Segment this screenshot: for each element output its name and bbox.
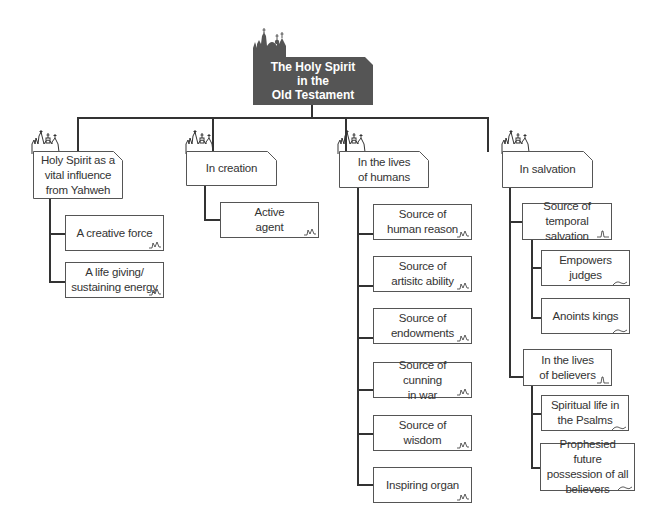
squiggle-icon — [149, 287, 161, 296]
leaf-active-agent: Active agent — [220, 202, 319, 238]
leaf-label: Inspiring organ — [382, 478, 463, 493]
leaf-a-creative-force: A creative force — [65, 215, 164, 251]
leaf-label: Source of human reason — [383, 207, 462, 237]
branch-4-label: In salvation — [516, 162, 580, 177]
branch-1-tick-2 — [49, 281, 65, 283]
leaf-source-of-wisdom: Source of wisdom — [373, 415, 472, 451]
squiggle-icon — [457, 387, 469, 396]
branch-3-label: In the lives of humans — [354, 155, 415, 185]
squiggle-icon — [457, 492, 469, 501]
squiggle-icon — [457, 281, 469, 290]
branch-node-holy-spirit-as-vital-influence: Holy Spirit as a vital influence from Ya… — [33, 151, 123, 199]
leaf-label: Source of wisdom — [395, 418, 450, 448]
squiggle-icon — [304, 227, 316, 236]
leaf-source-of-endowments: Source of endowments — [373, 308, 472, 344]
branch-3-tick-5 — [357, 433, 373, 435]
branch-node-in-the-lives-of-humans: In the lives of humans — [339, 151, 429, 188]
leaf-label: Active agent — [250, 205, 288, 235]
branch-node-in-creation: In creation — [186, 151, 277, 186]
temporal-tick-2 — [531, 317, 541, 319]
wave-tail-icon — [618, 485, 632, 491]
node-source-of-temporal-salvation: Source of temporal salvation — [522, 203, 612, 240]
squiggle-icon — [149, 240, 161, 249]
cathedral-silhouette-icon — [252, 28, 312, 60]
branch-1-tick-1 — [49, 233, 65, 235]
squiggle-icon — [457, 333, 469, 342]
branch-2-tick-1 — [204, 219, 220, 221]
leaf-source-of-cunning-in-war: Source of cunning in war — [373, 362, 472, 398]
spike-icon — [597, 375, 609, 384]
temporal-spine — [531, 239, 533, 319]
branch-3-tick-2 — [357, 285, 373, 287]
believers-spine — [531, 385, 533, 469]
leaf-source-of-artistic-ability: Source of artisitc ability — [373, 256, 472, 292]
leaf-label: A creative force — [72, 226, 156, 241]
branch-4-drop — [487, 117, 489, 152]
branch-1-drop — [77, 117, 79, 152]
node-label: In the lives of believers — [535, 353, 599, 383]
branch-node-in-salvation: In salvation — [502, 151, 593, 188]
leaf-spiritual-life-in-the-psalms: Spiritual life in the Psalms — [541, 395, 629, 431]
wave-tail-icon — [613, 328, 627, 334]
believers-tick-1 — [531, 413, 541, 415]
root-crossbar — [77, 117, 489, 119]
leaf-label: Source of endowments — [387, 311, 458, 341]
leaf-anoints-kings: Anoints kings — [541, 298, 630, 334]
wave-tail-icon — [613, 280, 627, 286]
leaf-prophesied-future-possession: Prophesied future possession of all beli… — [540, 443, 635, 491]
leaf-source-of-human-reason: Source of human reason — [373, 204, 472, 240]
squiggle-icon — [457, 440, 469, 449]
leaf-label: Spiritual life in the Psalms — [547, 398, 623, 428]
branch-3-tick-4 — [357, 389, 373, 391]
branch-3-spine — [357, 187, 359, 485]
spike-icon — [597, 229, 609, 238]
branch-4-spine — [509, 187, 511, 378]
branch-2-label: In creation — [202, 161, 262, 176]
branch-3-tick-1 — [357, 233, 373, 235]
temporal-tick-1 — [531, 267, 541, 269]
branch-3-tick-6 — [357, 484, 373, 486]
leaf-label: Anoints kings — [549, 309, 623, 324]
node-in-the-lives-of-believers: In the lives of believers — [523, 349, 612, 386]
leaf-empowers-judges: Empowers judges — [541, 250, 630, 286]
branch-4-tick-1 — [509, 221, 523, 223]
leaf-label: Empowers judges — [555, 253, 616, 283]
squiggle-icon — [457, 229, 469, 238]
root-label: The Holy Spirit in the Old Testament — [271, 60, 356, 102]
leaf-inspiring-organ: Inspiring organ — [373, 467, 472, 503]
branch-2-spine — [204, 185, 206, 221]
root-node-the-holy-spirit-in-the-old-testament: The Holy Spirit in the Old Testament — [253, 57, 373, 105]
branch-3-tick-3 — [357, 337, 373, 339]
branch-1-label: Holy Spirit as a vital influence from Ya… — [37, 153, 119, 198]
wave-tail-icon — [612, 425, 626, 431]
leaf-label: Source of artisitc ability — [387, 259, 458, 289]
branch-4-tick-2 — [509, 376, 523, 378]
branch-1-spine — [49, 198, 51, 283]
leaf-label: A life giving/ sustaining energy — [67, 265, 162, 295]
leaf-a-life-giving-sustaining-energy: A life giving/ sustaining energy — [65, 262, 164, 298]
